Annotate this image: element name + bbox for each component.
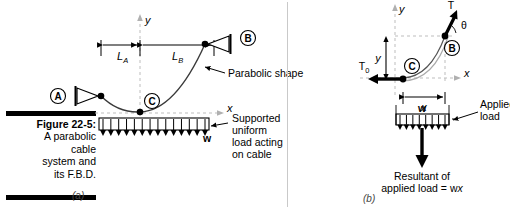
load-arrow-head <box>147 130 153 136</box>
dim-label-la: LA <box>117 50 128 65</box>
load-symbol-a: w <box>202 132 212 144</box>
diagram-b-free-body-diagram: y x T θ B T0 C <box>300 0 510 213</box>
load-arrow-head <box>139 130 145 136</box>
load-arrow-head <box>155 130 161 136</box>
load-arrow-head <box>429 125 434 131</box>
point-c-label-b: C <box>408 61 415 72</box>
support-a-label: A <box>54 91 61 102</box>
load-arrow-head <box>404 125 409 131</box>
dim-label-y: y <box>374 52 382 64</box>
point-b-label-b: B <box>448 43 455 54</box>
load-arrow-head <box>124 130 130 136</box>
tension-t-label: T <box>448 0 455 11</box>
callout-leader-parabolic <box>205 67 225 73</box>
load-arrow-head <box>178 130 184 136</box>
axis-x-arrow-b <box>454 75 461 81</box>
callout-load-line-4: on cable <box>232 148 272 160</box>
axis-x-arrow-a <box>217 110 224 116</box>
dim-y-arrow-top <box>383 36 388 42</box>
tension-t0-arrow-head <box>368 74 378 84</box>
point-b-marker-b <box>442 33 449 40</box>
load-arrow-head <box>423 125 428 131</box>
callout-leader-applied <box>453 112 478 120</box>
figure-page: Figure 22-5: A parabolic cable system an… <box>0 0 510 213</box>
callout-load-line-1: Supported <box>232 112 281 124</box>
load-symbol-b: w <box>417 102 427 114</box>
support-b-bracket <box>208 36 229 52</box>
load-arrow-head <box>436 125 441 131</box>
axis-y-arrow-b <box>392 4 398 11</box>
callout-applied-line-2: load <box>480 110 500 122</box>
load-arrow-head <box>100 130 106 136</box>
callout-load-line-3: load acting <box>232 136 283 148</box>
callout-load-line-2: uniform <box>232 124 267 136</box>
load-arrow-head <box>163 130 169 136</box>
resultant-arrow-head <box>416 155 429 168</box>
callout-parabolic-shape: Parabolic shape <box>228 67 303 79</box>
dim-label-lb: LB <box>172 50 183 65</box>
support-b-label: B <box>244 33 251 44</box>
point-c-marker-b <box>400 76 407 83</box>
support-a-bracket <box>77 88 98 104</box>
callout-applied-line-1: Applied <box>480 98 510 110</box>
resultant-caption-line-2: applied load = wx <box>381 182 463 194</box>
axis-y-label-b: y <box>398 3 406 15</box>
callout-leader-load-a <box>211 123 228 126</box>
point-c-marker-a <box>137 109 144 116</box>
load-arrow-head <box>171 130 177 136</box>
diagram-a-parabolic-cable-system: y x LA LB A B C <box>0 0 300 213</box>
support-b-pin <box>202 41 209 48</box>
load-arrow-head <box>442 125 447 131</box>
angle-theta-arc <box>452 26 456 33</box>
resultant-caption-line-1: Resultant of <box>394 170 450 182</box>
load-arrow-head <box>108 130 114 136</box>
angle-theta-label: θ <box>461 19 467 31</box>
panel-divider <box>287 2 288 207</box>
support-a-pin <box>98 93 105 100</box>
applied-load-box-b <box>396 114 449 125</box>
distributed-load-box-a <box>99 118 209 130</box>
load-arrow-head <box>397 125 402 131</box>
load-arrow-head <box>194 130 200 136</box>
point-c-label-a: C <box>148 96 155 107</box>
axis-y-label-a: y <box>144 14 152 26</box>
axis-y-arrow-a <box>137 14 143 21</box>
load-arrow-head <box>410 125 415 131</box>
load-arrow-head <box>131 130 137 136</box>
load-arrow-head <box>116 130 122 136</box>
axis-x-label-b: x <box>463 67 470 79</box>
tension-t0-label: T0 <box>359 60 370 75</box>
load-arrow-head <box>186 130 192 136</box>
